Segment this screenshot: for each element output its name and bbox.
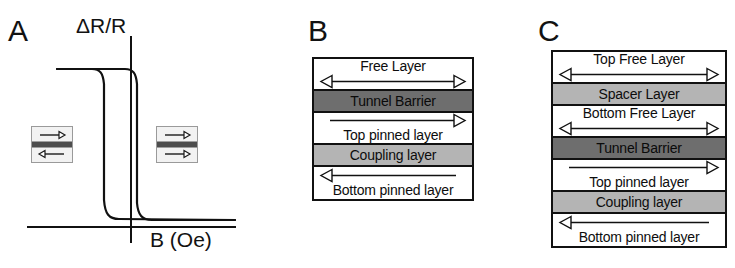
layer-top-free-layer: Top Free Layer (553, 52, 725, 84)
layer-label: Bottom pinned layer (579, 230, 700, 245)
layer-label: Top pinned layer (343, 128, 443, 143)
magnetization-arrow-right-icon (553, 160, 725, 175)
y-axis-label: ΔR/R (76, 14, 126, 38)
barrier-band (157, 142, 197, 148)
layer-label: Spacer Layer (599, 87, 680, 102)
panel-c-letter: C (538, 16, 560, 46)
magnetization-arrow-double-icon (553, 121, 725, 136)
hysteresis-branch-ascending (57, 69, 235, 220)
layer-tunnel-barrier: Tunnel Barrier (314, 91, 472, 113)
panel-c-layer-stack: Top Free LayerSpacer LayerBottom Free La… (551, 50, 727, 248)
layer-label: Bottom Free Layer (583, 106, 696, 121)
layer-coupling-layer: Coupling layer (314, 145, 472, 167)
x-axis-label: B (Oe) (150, 228, 212, 252)
layer-top-pinned-layer: Top pinned layer (314, 113, 472, 145)
magnetization-arrow-left-icon (314, 168, 472, 183)
layer-tunnel-barrier: Tunnel Barrier (553, 138, 725, 160)
magnetization-arrow-double-icon (553, 67, 725, 82)
parallel-state-icon (156, 126, 198, 163)
panel-b-layer-stack: Free LayerTunnel BarrierTop pinned layer… (312, 57, 474, 201)
layer-spacer-layer: Spacer Layer (553, 84, 725, 106)
panel-a-letter: A (8, 16, 28, 46)
layer-label: Coupling layer (350, 148, 437, 163)
antiparallel-state-icon (31, 126, 73, 163)
layer-free-layer: Free Layer (314, 59, 472, 91)
layer-label: Bottom pinned layer (333, 183, 454, 198)
panel-a: A ΔR/R B (Oe) (0, 0, 250, 268)
layer-bottom-pinned-layer: Bottom pinned layer (553, 214, 725, 246)
layer-top-pinned-layer: Top pinned layer (553, 160, 725, 192)
barrier-band (32, 142, 72, 148)
layer-bottom-pinned-layer: Bottom pinned layer (314, 167, 472, 199)
layer-label: Tunnel Barrier (350, 94, 435, 109)
layer-bottom-free-layer: Bottom Free Layer (553, 106, 725, 138)
layer-label: Top pinned layer (589, 175, 689, 190)
magnetization-arrow-left-icon (553, 215, 725, 230)
layer-label: Free Layer (360, 59, 426, 74)
panel-b-letter: B (308, 16, 328, 46)
hysteresis-branch-descending (57, 69, 235, 220)
layer-label: Top Free Layer (593, 52, 684, 67)
layer-coupling-layer: Coupling layer (553, 192, 725, 214)
layer-label: Coupling layer (596, 195, 683, 210)
figure-root: A ΔR/R B (Oe) (0, 0, 735, 268)
magnetization-arrow-right-icon (314, 113, 472, 128)
magnetization-arrow-double-icon (314, 74, 472, 89)
layer-label: Tunnel Barrier (596, 141, 681, 156)
